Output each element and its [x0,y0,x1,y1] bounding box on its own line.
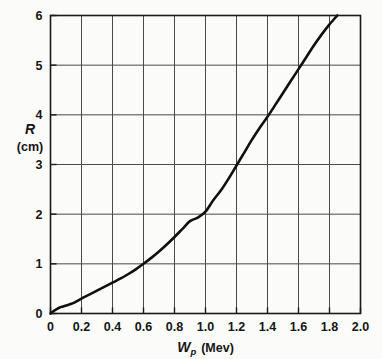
y-tick-label: 2 [36,208,43,222]
x-tick-label: 0.8 [166,320,183,334]
y-tick-label: 6 [36,9,43,23]
range-energy-chart: 00.20.40.60.81.01.21.41.61.82.00123456R(… [0,0,382,359]
x-tick-label: 1.8 [321,320,338,334]
y-tick-label: 1 [36,257,43,271]
x-tick-label: 2.0 [352,320,369,334]
x-tick-label: 1.4 [259,320,276,334]
x-tick-label: 1.0 [197,320,214,334]
chart-canvas: 00.20.40.60.81.01.21.41.61.82.00123456R(… [0,0,382,359]
x-tick-label: 0.6 [135,320,152,334]
x-axis-subscript: p [189,346,196,357]
x-axis-units: (Mev) [201,341,234,355]
x-tick-label: 0.4 [104,320,121,334]
y-tick-label: 5 [36,59,43,73]
grid-lines [51,16,361,314]
x-tick-label: 1.6 [290,320,307,334]
y-tick-labels: 0123456 [36,9,43,321]
y-tick-label: 0 [36,307,43,321]
x-tick-label: 0.2 [73,320,90,334]
y-axis-title: R [25,121,36,137]
y-tick-label: 4 [36,108,43,122]
y-tick-label: 3 [36,158,43,172]
y-axis-units: (cm) [17,140,43,154]
x-tick-label: 1.2 [228,320,245,334]
x-axis-title: Wp(Mev) [177,339,234,358]
x-tick-labels: 00.20.40.60.81.01.21.41.61.82.0 [47,320,369,334]
x-tick-label: 0 [47,320,54,334]
